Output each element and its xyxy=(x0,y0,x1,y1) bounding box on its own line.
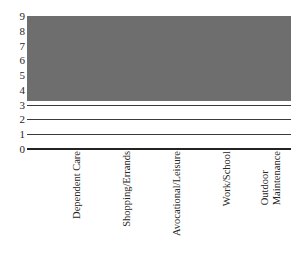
y-tick-label-5: 5 xyxy=(3,70,25,81)
y-axis-tick-labels: 9 8 7 6 5 4 3 2 1 0 xyxy=(0,16,25,149)
x-label-avocational-leisure: Avocational/Leisure xyxy=(171,151,183,236)
x-label-outdoor-maintenance-line2: Maintenance xyxy=(271,151,283,205)
y-tick-label-9: 9 xyxy=(3,11,25,22)
gridline-3 xyxy=(27,105,291,106)
x-label-dependent-care: Dependent Care xyxy=(71,151,83,219)
x-label-outdoor-maintenance: Outdoor Maintenance xyxy=(259,151,283,205)
y-tick-label-0: 0 xyxy=(3,144,25,155)
x-label-shopping-errands: Shopping/Errands xyxy=(121,151,133,227)
bar-outdoor-maintenance xyxy=(252,100,279,102)
y-tick-label-3: 3 xyxy=(3,100,25,111)
x-label-outdoor-maintenance-line1: Outdoor xyxy=(259,170,270,205)
bar-dependent-care xyxy=(60,16,87,101)
bar-chart: 9 8 7 6 5 4 3 2 1 0 Dependent Care Shopp… xyxy=(0,0,299,122)
bar-work-school xyxy=(210,63,237,101)
bar-avocational-leisure xyxy=(160,100,187,101)
y-tick-label-8: 8 xyxy=(3,26,25,37)
x-axis-baseline xyxy=(27,148,291,150)
gridline-2 xyxy=(27,119,291,120)
y-tick-label-7: 7 xyxy=(3,41,25,52)
y-tick-label-1: 1 xyxy=(3,129,25,140)
gridline-1 xyxy=(27,134,291,135)
y-tick-label-4: 4 xyxy=(3,85,25,96)
y-tick-label-6: 6 xyxy=(3,55,25,66)
x-label-work-school: Work/School xyxy=(221,151,233,206)
bar-series xyxy=(27,16,291,101)
bar-shopping-errands xyxy=(110,63,137,101)
y-tick-label-2: 2 xyxy=(3,114,25,125)
x-axis-category-labels: Dependent Care Shopping/Errands Avocatio… xyxy=(27,151,291,261)
